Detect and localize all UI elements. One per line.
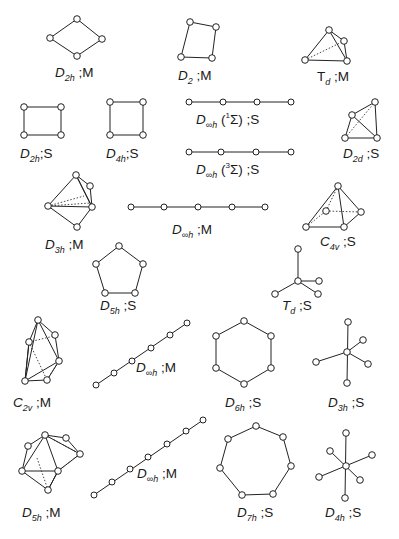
structure-d4h-s-star — [316, 430, 376, 502]
label-c2v-m: C2v ;M — [13, 395, 51, 413]
structure-d2h-m — [47, 16, 106, 60]
structure-td-m — [302, 27, 351, 65]
structure-dinfh-m-7 — [91, 417, 206, 498]
label-td-s: Td ;S — [282, 298, 312, 316]
label-dinfh-m-5: D∞h ;M — [172, 222, 212, 240]
structure-d4h-s — [107, 99, 147, 139]
structure-d2-m — [178, 19, 220, 62]
label-d7h-s: D7h ;S — [237, 505, 273, 523]
label-dinfh-m-7: D∞h ;M — [137, 466, 177, 484]
label-d3h-s: D3h ;S — [328, 395, 364, 413]
structure-d2h-s — [21, 104, 65, 139]
label-c4v-s: C4v ;S — [320, 234, 356, 252]
structure-td-s — [272, 246, 323, 298]
structure-d6h-s — [213, 318, 275, 388]
structure-d5h-s — [93, 243, 147, 297]
structure-c4v-s — [303, 183, 365, 231]
label-d3h-m: D3h ;M — [45, 237, 84, 255]
structure-d3h-s — [313, 319, 372, 387]
label-d5h-s: D5h ;S — [100, 298, 136, 316]
label-d2h-m: D2h ;M — [55, 65, 94, 83]
structure-dinfh-1sigma-s — [186, 99, 294, 105]
structure-d3h-m — [45, 172, 96, 231]
label-td-m: Td ;M — [317, 69, 349, 87]
structure-dinfh-3sigma-s — [186, 149, 294, 155]
label-d4h-s: D4h;S — [106, 146, 139, 164]
structure-d7h-s — [217, 423, 295, 499]
structure-dinfh-m-5 — [128, 204, 268, 210]
label-d2d-s: D2d ;S — [343, 146, 379, 164]
label-dinfh-m-6: D∞h ;M — [136, 360, 176, 378]
structure-dinfh-m-6 — [93, 320, 190, 388]
label-d4h-s-star: D4h ;S — [325, 505, 361, 523]
label-dinfh-1sigma-s: D∞h (1Σ) ;S — [196, 111, 259, 129]
label-dinfh-3sigma-s: D∞h (3Σ) ;S — [196, 161, 259, 179]
structure-c2v-m — [22, 317, 63, 385]
structure-d2d-s — [342, 99, 381, 142]
label-d2-m: D2 ;M — [178, 68, 212, 86]
label-d2h-s: D2h;S — [20, 146, 53, 164]
structure-d5h-m — [19, 432, 84, 494]
label-d5h-m: D5h ;M — [22, 505, 61, 523]
label-d6h-s: D6h ;S — [225, 395, 261, 413]
